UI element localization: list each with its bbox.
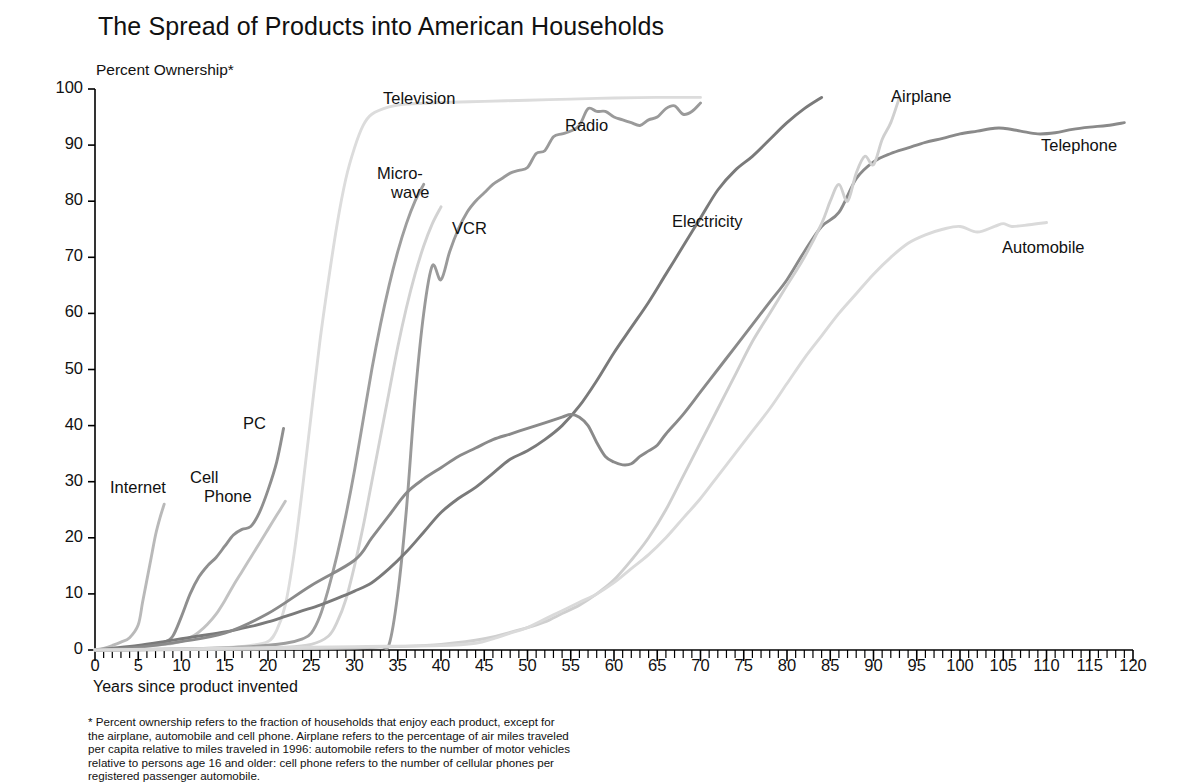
x-tick-label: 35 [378,656,418,675]
footnote-line: per capita relative to miles traveled in… [88,742,788,756]
series-label-automobile: Automobile [1002,238,1085,256]
x-tick-label: 30 [335,656,375,675]
x-tick-label: 95 [897,656,937,675]
y-tick-label: 70 [37,246,83,265]
x-tick-label: 0 [75,656,115,675]
y-tick-label: 80 [37,190,83,209]
series-label-pc: PC [243,414,266,432]
series-label-internet: Internet [110,478,166,496]
series-line-cell-phone [95,501,285,650]
x-tick-label: 100 [940,656,980,675]
series-label-line: Telephone [1041,136,1117,154]
series-label-cell-phone: CellPhone [190,468,252,506]
x-tick-label: 5 [118,656,158,675]
footnote-line: registered passenger automobile. [88,769,788,783]
x-tick-label: 55 [551,656,591,675]
footnote-line: * Percent ownership refers to the fracti… [88,715,788,729]
x-tick-label: 120 [1113,656,1153,675]
series-label-electricity: Electricity [672,212,743,230]
series-label-vcr: VCR [452,219,487,237]
x-tick-label: 15 [205,656,245,675]
x-tick-label: 70 [681,656,721,675]
x-tick-label: 20 [248,656,288,675]
series-label-line: Micro- [377,164,430,183]
series-label-line: Electricity [672,212,743,230]
y-tick-label: 50 [37,359,83,378]
x-tick-label: 10 [162,656,202,675]
series-label-line: VCR [452,219,487,237]
x-tick-label: 105 [983,656,1023,675]
x-tick-label: 65 [637,656,677,675]
series-label-airplane: Airplane [891,87,952,105]
y-tick-label: 10 [37,583,83,602]
series-label-radio: Radio [565,116,608,134]
x-tick-label: 40 [421,656,461,675]
series-label-line: Airplane [891,87,952,105]
series-label-line: Cell [190,468,252,487]
series-line-telephone [95,123,1124,650]
chart-root: The Spread of Products into American Hou… [0,0,1191,784]
x-tick-label: 85 [810,656,850,675]
x-axis-title: Years since product invented [93,678,298,696]
x-tick-label: 45 [464,656,504,675]
y-tick-label: 30 [37,471,83,490]
axes-layer [88,89,1133,661]
series-label-line: Automobile [1002,238,1085,256]
series-line-internet [95,504,164,650]
y-tick-label: 40 [37,415,83,434]
series-label-television: Television [383,89,455,107]
y-tick-label: 100 [37,78,83,97]
y-tick-label: 90 [37,134,83,153]
series-label-line: Phone [204,487,252,506]
series-layer [95,97,1124,650]
series-label-line: wave [391,183,430,202]
footnote-line: relative to persons age 16 and older: ce… [88,756,788,770]
x-tick-label: 60 [594,656,634,675]
series-label-line: Radio [565,116,608,134]
series-label-line: Television [383,89,455,107]
x-tick-label: 50 [508,656,548,675]
series-label-line: Internet [110,478,166,496]
series-line-automobile [95,223,1047,650]
series-line-electricity [95,97,822,650]
x-tick-label: 90 [854,656,894,675]
x-tick-label: 75 [724,656,764,675]
chart-footnote: * Percent ownership refers to the fracti… [88,715,788,783]
series-label-micro-wave: Micro-wave [377,164,430,202]
x-tick-label: 110 [1027,656,1067,675]
y-tick-label: 20 [37,527,83,546]
x-tick-label: 115 [1070,656,1110,675]
series-line-pc [95,428,284,650]
y-tick-label: 60 [37,302,83,321]
x-tick-label: 25 [291,656,331,675]
x-tick-label: 80 [767,656,807,675]
series-label-telephone: Telephone [1041,136,1117,154]
series-label-line: PC [243,414,266,432]
footnote-line: the airplane, automobile and cell phone.… [88,729,788,743]
